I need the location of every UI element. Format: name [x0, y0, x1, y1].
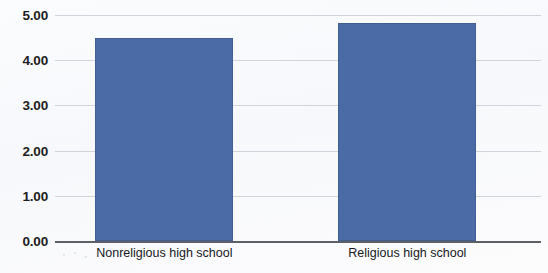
y-axis-tick-label: 3.00	[0, 98, 48, 113]
y-axis-tick-label: 5.00	[0, 8, 48, 23]
x-axis-tick-label: Religious high school	[348, 246, 466, 260]
bar-chart: 5.00 4.00 3.00 2.00 1.00 0.00 Nonreligio…	[0, 0, 548, 273]
x-axis-tick-labels: Nonreligious high school Religious high …	[55, 246, 541, 270]
x-axis-tick-label: Nonreligious high school	[96, 246, 232, 260]
x-axis-baseline	[55, 241, 541, 243]
y-axis-tick-label: 2.00	[0, 143, 48, 158]
bar-Nonreligious high school	[95, 38, 233, 241]
y-axis-tick-label: 4.00	[0, 53, 48, 68]
plot-area	[55, 15, 541, 241]
y-axis-tick-label: 1.00	[0, 188, 48, 203]
y-axis-tick-label: 0.00	[0, 234, 48, 249]
bar-Religious high school	[338, 23, 476, 241]
y-axis-tick-labels: 5.00 4.00 3.00 2.00 1.00 0.00	[0, 15, 48, 241]
gridline	[55, 15, 541, 16]
